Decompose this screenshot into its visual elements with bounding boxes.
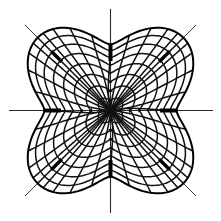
grid-canvas: Conformal coordinate grid: [0, 0, 221, 221]
conformal-grid-figure: Conformal coordinate grid: [0, 0, 221, 221]
